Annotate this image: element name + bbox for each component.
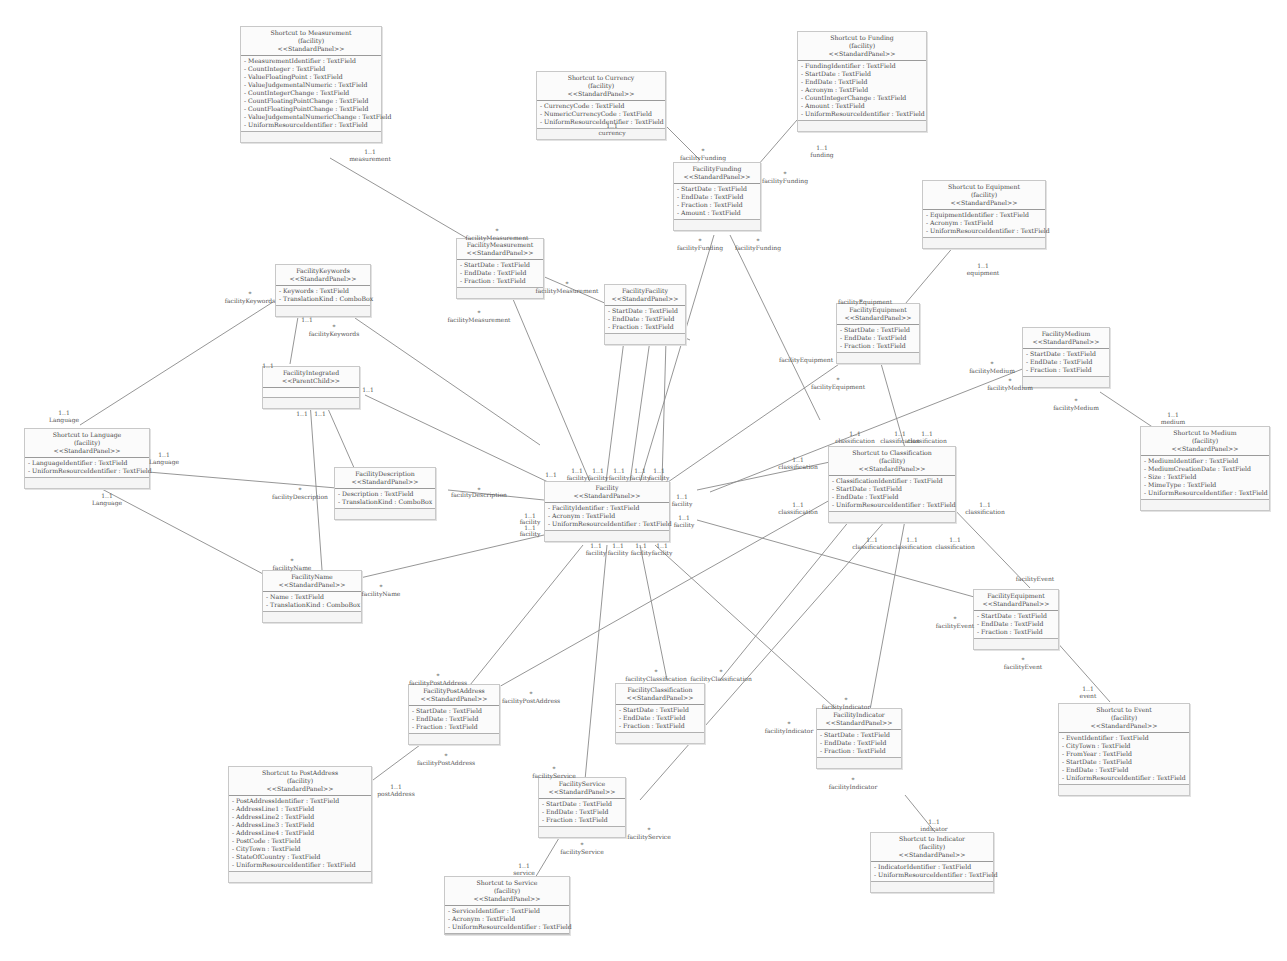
- class-facility-medium[interactable]: FacilityMedium<<StandardPanel>> - StartD…: [1022, 327, 1110, 388]
- association-end-label: *: [845, 696, 848, 703]
- association-end-label: equipment: [967, 269, 1000, 276]
- class-facility-facility[interactable]: FacilityFacility<<StandardPanel>> - Star…: [604, 284, 686, 345]
- association-end-label: *: [566, 280, 569, 287]
- attribute: - FundingIdentifier : TextField: [801, 62, 923, 70]
- class-facility-service[interactable]: FacilityService<<StandardPanel>> - Start…: [538, 777, 626, 838]
- association-end-label: facilityPostAddress: [502, 697, 560, 704]
- association-end-label: *: [496, 227, 499, 234]
- operations-compartment: [263, 398, 359, 408]
- attribute: - UniformResourceIdentifier : TextField: [448, 923, 566, 931]
- class-title: FacilityEquipment: [839, 306, 917, 314]
- class-facility-integrated[interactable]: FacilityIntegrated<<ParentChild>>: [262, 366, 360, 409]
- class-shortcut-to-measurement[interactable]: Shortcut to Measurement(facility)<<Stand…: [240, 26, 382, 143]
- association-end-label: facilityKeywords: [225, 297, 276, 304]
- class-title: Shortcut to Service: [447, 879, 567, 887]
- association-end-label: facilityName: [362, 590, 401, 597]
- class-title: FacilityEquipment: [976, 592, 1056, 600]
- attribute: - TranslationKind : ComboBox: [266, 601, 358, 609]
- class-shortcut-to-equipment[interactable]: Shortcut to Equipment(facility)<<Standar…: [922, 180, 1046, 249]
- class-facility-name[interactable]: FacilityName<<StandardPanel>> - Name : T…: [262, 570, 362, 623]
- class-facility-description[interactable]: FacilityDescription<<StandardPanel>> - D…: [334, 467, 436, 520]
- class-facility-postaddress[interactable]: FacilityPostAddress<<StandardPanel>> - S…: [408, 684, 500, 745]
- attribute: - CountFloatingPointChange : TextField: [244, 97, 378, 105]
- class-stereotype: <<StandardPanel>>: [541, 788, 623, 796]
- class-stereotype: <<StandardPanel>>: [243, 45, 379, 53]
- class-title: Shortcut to Indicator: [873, 835, 991, 843]
- class-scope: (facility): [925, 191, 1043, 199]
- attribute: - CountInteger : TextField: [244, 65, 378, 73]
- attribute: - EndDate : TextField: [801, 78, 923, 86]
- class-facility-equipment[interactable]: FacilityEquipment<<StandardPanel>> - Sta…: [836, 303, 920, 364]
- class-facility-measurement[interactable]: FacilityMeasurement<<StandardPanel>> - S…: [456, 238, 544, 299]
- class-facility-classification[interactable]: FacilityClassification<<StandardPanel>> …: [615, 683, 705, 744]
- association-end-label: facilityFunding: [680, 154, 726, 161]
- association-end-label: 1..1: [592, 467, 603, 474]
- attribute: - StartDate : TextField: [840, 326, 916, 334]
- association-end-label: *: [954, 615, 957, 622]
- class-stereotype: <<StandardPanel>>: [976, 600, 1056, 608]
- attribute: - Acronym : TextField: [448, 915, 566, 923]
- class-shortcut-to-postaddress[interactable]: Shortcut to PostAddress(facility)<<Stand…: [228, 766, 372, 883]
- class-facility-funding[interactable]: FacilityFunding<<StandardPanel>> - Start…: [673, 162, 761, 231]
- attribute: - ValueJudgementalNumericChange : TextFi…: [244, 113, 378, 121]
- attribute: - StartDate : TextField: [977, 612, 1055, 620]
- class-shortcut-to-funding[interactable]: Shortcut to Funding(facility)<<StandardP…: [797, 31, 927, 132]
- class-title: FacilityPostAddress: [411, 687, 497, 695]
- class-facility-keywords[interactable]: FacilityKeywords<<StandardPanel>> - Keyw…: [275, 264, 371, 317]
- association-end-label: currency: [598, 129, 625, 136]
- class-shortcut-to-medium[interactable]: Shortcut to Medium(facility)<<StandardPa…: [1140, 426, 1270, 511]
- attribute: - Fraction : TextField: [1026, 366, 1106, 374]
- attribute: - EndDate : TextField: [832, 493, 952, 501]
- association-end-label: 1..1: [928, 818, 939, 825]
- attribute: - StartDate : TextField: [832, 485, 952, 493]
- association-end-label: 1..1: [158, 451, 169, 458]
- association-end-label: 1..1: [977, 262, 988, 269]
- attribute: - Fraction : TextField: [460, 277, 540, 285]
- operations-compartment: [539, 827, 625, 837]
- attribute: - Name : TextField: [266, 593, 358, 601]
- attribute: - UniformResourceIdentifier : TextField: [926, 227, 1042, 235]
- class-facility-indicator[interactable]: FacilityIndicator<<StandardPanel>> - Sta…: [816, 708, 902, 769]
- association-end-label: postAddress: [377, 790, 415, 797]
- attribute: - UniformResourceIdentifier : TextField: [1062, 774, 1186, 782]
- association-end-label: 1..1: [656, 542, 667, 549]
- association-end-label: 1..1: [653, 467, 664, 474]
- class-stereotype: <<StandardPanel>>: [1143, 445, 1267, 453]
- association-end-label: facilityMeasurement: [536, 287, 599, 294]
- class-shortcut-to-language[interactable]: Shortcut to Language(facility)<<Standard…: [24, 428, 150, 489]
- association-end-label: facilityName: [273, 564, 312, 571]
- association-end-label: *: [249, 290, 252, 297]
- association-end-label: *: [720, 668, 723, 675]
- association-end-label: measurement: [349, 155, 391, 162]
- operations-compartment: [674, 220, 760, 230]
- attribute: - AddressLine2 : TextField: [232, 813, 368, 821]
- association-end-label: 1..1: [816, 144, 827, 151]
- class-stereotype: <<StandardPanel>>: [873, 851, 991, 859]
- association-end-label: 1..1: [979, 501, 990, 508]
- association-end-label: 1..1: [634, 467, 645, 474]
- operations-compartment: [837, 353, 919, 363]
- class-shortcut-to-classification[interactable]: Shortcut to Classification(facility)<<St…: [828, 446, 956, 523]
- class-facility-event[interactable]: FacilityEquipment<<StandardPanel>> - Sta…: [973, 589, 1059, 650]
- association-end-label: 1..1: [612, 542, 623, 549]
- operations-compartment: [817, 758, 901, 768]
- association-end-label: classification: [907, 437, 947, 444]
- attribute: - StartDate : TextField: [542, 800, 622, 808]
- class-shortcut-to-event[interactable]: Shortcut to Event(facility)<<StandardPan…: [1058, 703, 1190, 796]
- association-end-label: *: [437, 672, 440, 679]
- attribute: - CountFloatingPointChange : TextField: [244, 105, 378, 113]
- class-shortcut-to-service[interactable]: Shortcut to Service(facility)<<StandardP…: [444, 876, 570, 935]
- association-end-label: *: [291, 557, 294, 564]
- attribute: - Fraction : TextField: [840, 342, 916, 350]
- class-facility[interactable]: Facility<<StandardPanel>> - FacilityIden…: [544, 481, 670, 542]
- association-end-label: Language: [49, 416, 79, 423]
- attribute: - EventIdentifier : TextField: [1062, 734, 1186, 742]
- class-shortcut-to-indicator[interactable]: Shortcut to Indicator(facility)<<Standar…: [870, 832, 994, 893]
- attribute: - Description : TextField: [338, 490, 432, 498]
- association-end-label: 1..1: [301, 316, 312, 323]
- class-stereotype: <<StandardPanel>>: [1025, 338, 1107, 346]
- association-end-label: facilityDescription: [272, 493, 328, 500]
- attribute: - Fraction : TextField: [542, 816, 622, 824]
- association-end-label: *: [784, 170, 787, 177]
- attribute: - EndDate : TextField: [1026, 358, 1106, 366]
